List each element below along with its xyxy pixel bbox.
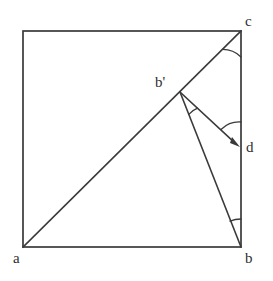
- angle-arc-at-b: [230, 219, 241, 221]
- vertex-label-b: b: [245, 251, 253, 266]
- diagonal-line-a-c: [23, 31, 241, 247]
- vertex-label-c: c: [245, 14, 252, 29]
- vertex-label-d: d: [246, 140, 254, 155]
- angle-arc-at-bprime: [189, 108, 198, 114]
- vertex-label-b-prime: b': [155, 75, 165, 90]
- figure-canvas: [0, 0, 273, 281]
- segment-line-bprime-d: [180, 92, 234, 142]
- angle-arc-at-c: [223, 49, 241, 57]
- vertex-label-a: a: [13, 251, 20, 266]
- segment-line-bprime-b: [180, 92, 241, 247]
- arrowhead-at-d: [230, 137, 240, 147]
- angle-arc-at-d: [221, 122, 241, 129]
- geometric-figure: a b c d b': [0, 0, 273, 281]
